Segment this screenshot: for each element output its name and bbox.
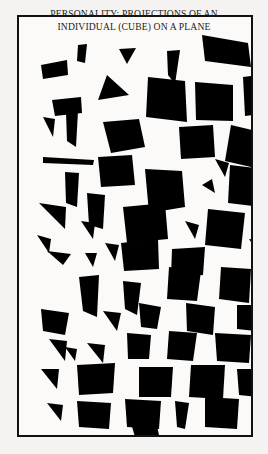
projection-shape — [123, 203, 168, 243]
projection-shape — [79, 275, 99, 317]
projection-shape — [237, 305, 253, 331]
projection-shape — [39, 203, 66, 229]
projection-shape — [43, 157, 94, 165]
projection-shape — [219, 267, 251, 303]
projection-shape — [81, 221, 95, 239]
projection-shape — [202, 35, 251, 67]
projection-shape — [167, 267, 201, 301]
projection-shape — [49, 339, 67, 361]
projection-shape — [243, 74, 253, 116]
projection-shape — [225, 125, 253, 169]
projection-shape — [237, 369, 253, 397]
figure-frame — [17, 15, 253, 437]
projection-shape — [185, 221, 199, 239]
projection-shape — [98, 155, 135, 187]
projection-shape — [41, 309, 69, 335]
projection-shape — [47, 403, 63, 421]
projection-shape — [43, 117, 55, 137]
projection-shape — [121, 239, 159, 271]
projection-shape — [98, 75, 129, 100]
projection-shape — [186, 303, 215, 335]
projection-shape — [123, 281, 141, 315]
projection-shape — [251, 399, 253, 427]
projection-shape — [47, 251, 71, 265]
projection-shape — [77, 363, 115, 395]
projection-shape — [205, 397, 239, 429]
projection-shape — [103, 119, 145, 153]
projection-shape — [85, 253, 97, 267]
projection-shape — [66, 111, 78, 147]
figure-container: PERSONALITY: PROJECTIONS OF AN INDIVIDUA… — [0, 0, 268, 454]
projection-shape — [205, 209, 245, 249]
projection-shape — [103, 311, 121, 331]
projection-shape — [167, 331, 197, 361]
projection-shape — [215, 333, 251, 363]
projection-shape — [249, 239, 253, 263]
projection-shape — [127, 333, 151, 359]
projection-shape — [77, 44, 87, 63]
projection-shape — [215, 159, 229, 177]
projection-shape — [167, 50, 180, 84]
projection-shape — [195, 82, 233, 121]
projection-shape — [41, 60, 68, 79]
projection-shape — [175, 401, 189, 429]
projection-shape — [146, 77, 187, 122]
projection-shape — [87, 343, 105, 363]
projection-shape — [65, 172, 79, 207]
projection-shape — [77, 401, 111, 429]
projection-shape — [179, 125, 215, 159]
projection-shape — [139, 367, 173, 397]
projection-shape — [65, 347, 77, 361]
projection-shape — [202, 179, 215, 193]
projection-shapes-canvas — [19, 17, 253, 437]
projection-shape — [139, 303, 161, 329]
projection-shape — [105, 243, 119, 261]
projection-shape — [41, 369, 59, 389]
projection-shape — [119, 48, 136, 64]
projection-shape — [228, 165, 253, 207]
projection-shape — [37, 235, 51, 253]
projection-shape — [189, 365, 225, 399]
